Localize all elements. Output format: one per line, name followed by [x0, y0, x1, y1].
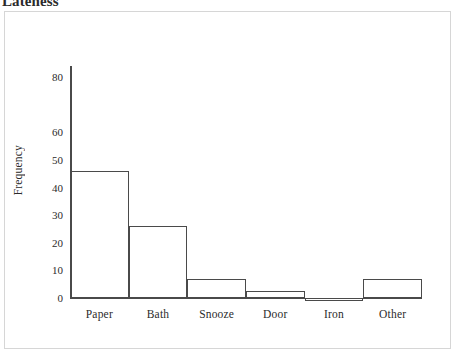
bar	[246, 291, 305, 298]
x-axis-label: Bath	[147, 308, 170, 320]
y-tick-label: 20	[52, 237, 63, 249]
x-axis-label: Other	[379, 308, 406, 320]
bar	[305, 298, 364, 301]
bar	[70, 171, 129, 298]
x-axis-label: Snooze	[199, 308, 234, 320]
bar	[129, 226, 188, 298]
y-tick-label: 40	[52, 182, 63, 194]
y-tick-label: 60	[52, 126, 63, 138]
y-axis-ticks: 010203040506080	[0, 0, 63, 361]
y-tick-label: 50	[52, 154, 63, 166]
x-axis-label: Iron	[324, 308, 344, 320]
x-axis-label: Door	[263, 308, 287, 320]
y-tick-label: 0	[58, 292, 64, 304]
y-tick-label: 30	[52, 209, 63, 221]
x-axis-label: Paper	[86, 308, 113, 320]
y-tick-label: 80	[52, 71, 63, 83]
y-tick-label: 10	[52, 264, 63, 276]
bar	[187, 279, 246, 298]
bar	[363, 279, 422, 298]
